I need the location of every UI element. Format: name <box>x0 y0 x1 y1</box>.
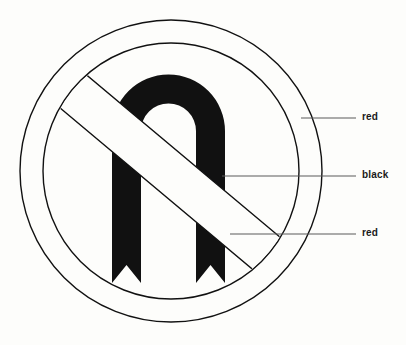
callout-label-red-top: red <box>362 112 378 122</box>
no-u-turn-diagram <box>0 0 406 345</box>
callout-label-black: black <box>362 170 389 180</box>
callout-label-red-bottom: red <box>362 228 378 238</box>
figure-canvas: red black red <box>0 0 406 345</box>
